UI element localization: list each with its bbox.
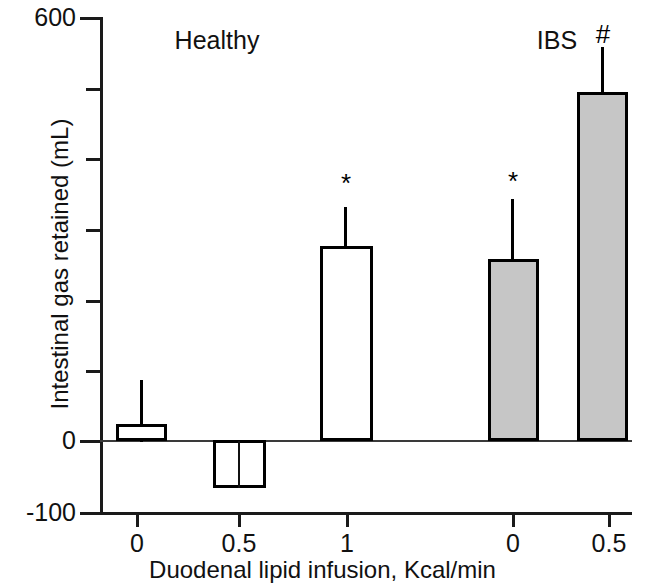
error-bar-ibs-0 [511, 199, 514, 260]
y-tick-label-600: 600 [34, 5, 76, 30]
bar-ibs-0p5 [577, 92, 628, 441]
y-tick-100 [86, 370, 100, 373]
y-tick-label-0: 0 [62, 428, 76, 453]
error-bar-healthy-1 [344, 207, 347, 249]
x-tick-label-ibs-0: 0 [473, 529, 553, 558]
y-tick-label-minus100: -100 [26, 500, 76, 525]
y-axis-title: Intestinal gas retained (mL) [46, 54, 74, 474]
x-axis-line [100, 512, 632, 515]
x-tick-healthy-1 [346, 515, 349, 527]
y-tick-500 [86, 88, 100, 91]
x-tick-healthy-0p5 [238, 515, 241, 527]
significance-marker-ibs-0p5: # [573, 21, 633, 47]
x-tick-ibs-0 [512, 515, 515, 527]
significance-marker-ibs-0: * [483, 168, 543, 194]
y-tick-600 [80, 17, 100, 20]
x-tick-healthy-0 [136, 515, 139, 527]
error-bar-healthy-0p5 [238, 441, 240, 488]
x-tick-label-ibs-0p5: 0.5 [569, 529, 645, 558]
x-axis-title: Duodenal lipid infusion, Kcal/min [0, 556, 645, 584]
y-tick-0 [80, 440, 100, 443]
y-tick-400 [86, 158, 100, 161]
group-label-healthy: Healthy [117, 28, 317, 53]
bar-healthy-1 [320, 246, 373, 441]
y-tick-200 [86, 300, 100, 303]
y-tick-minus100 [80, 512, 100, 515]
error-bar-ibs-0p5 [601, 47, 604, 93]
significance-marker-healthy-1: * [316, 170, 376, 196]
x-tick-ibs-0p5 [608, 515, 611, 527]
x-tick-label-healthy-0: 0 [97, 529, 177, 558]
y-tick-300 [86, 229, 100, 232]
bar-healthy-0 [116, 424, 167, 441]
x-tick-label-healthy-0p5: 0.5 [199, 529, 279, 558]
x-tick-label-healthy-1: 1 [307, 529, 387, 558]
bar-ibs-0 [488, 259, 539, 441]
